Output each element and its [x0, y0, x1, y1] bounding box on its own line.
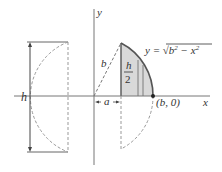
dashed-arc-lower	[121, 96, 153, 149]
h-arrow-up-icon	[28, 42, 32, 47]
y-axis-label: y	[96, 6, 102, 18]
cross-section-arc-dashed	[30, 42, 68, 152]
b-label: b	[101, 57, 107, 69]
curve-equation-label: y = √b2 − x2	[144, 44, 200, 56]
solid-cross-section-diagram: y x h b a h 2 (b, 0) y = √b2 − x2	[0, 0, 222, 172]
radius-b-dashed	[94, 43, 121, 96]
point-b-0	[151, 94, 155, 98]
point-b-0-label: (b, 0)	[156, 96, 180, 109]
h-label: h	[21, 90, 27, 104]
x-axis-label: x	[202, 96, 208, 108]
h-half-denominator: 2	[125, 73, 131, 85]
h-arrow-down-icon	[28, 147, 32, 152]
h-half-numerator: h	[126, 59, 132, 71]
a-arrow-right-icon	[116, 101, 120, 104]
a-label: a	[104, 95, 110, 107]
